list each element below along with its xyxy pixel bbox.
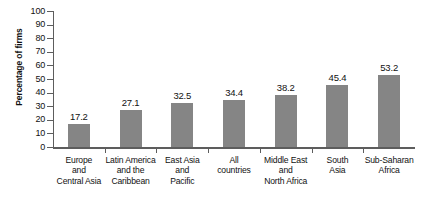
bar: 38.2 bbox=[275, 11, 297, 147]
bar: 53.2 bbox=[378, 11, 400, 147]
bar-fill bbox=[171, 103, 193, 147]
x-axis-category-label: Sub-SaharanAfrica bbox=[359, 155, 419, 176]
x-axis-category-line: Sub-Saharan bbox=[359, 155, 419, 165]
bar-fill bbox=[275, 95, 297, 147]
x-axis-category-line: North Africa bbox=[256, 176, 316, 186]
bar-fill bbox=[223, 100, 245, 147]
x-axis-tick bbox=[260, 148, 261, 153]
bars-layer: 17.227.132.534.438.245.453.2 bbox=[0, 11, 432, 147]
bar-value-label: 45.4 bbox=[308, 73, 366, 83]
bar-value-label: 17.2 bbox=[50, 112, 108, 122]
bar-value-label: 32.5 bbox=[153, 91, 211, 101]
bar-fill bbox=[68, 124, 90, 147]
bar-fill bbox=[326, 85, 348, 147]
x-axis-tick bbox=[105, 148, 106, 153]
bar-value-label: 53.2 bbox=[360, 63, 418, 73]
x-axis-category-line: Africa bbox=[359, 165, 419, 175]
x-axis-tick bbox=[156, 148, 157, 153]
cut-off-title-sliver bbox=[110, 0, 360, 2]
bar-value-label: 38.2 bbox=[257, 83, 315, 93]
bar-fill bbox=[378, 75, 400, 147]
x-axis-tick bbox=[312, 148, 313, 153]
x-axis-line bbox=[53, 147, 415, 149]
bar-value-label: 27.1 bbox=[102, 98, 160, 108]
bar: 32.5 bbox=[171, 11, 193, 147]
bar: 17.2 bbox=[68, 11, 90, 147]
bar-fill bbox=[120, 110, 142, 147]
bar-chart: Percentage of firms 01020304050607080901… bbox=[0, 0, 432, 201]
bar: 27.1 bbox=[120, 11, 142, 147]
x-axis-category-line: Pacific bbox=[152, 176, 212, 186]
bar-value-label: 34.4 bbox=[205, 88, 263, 98]
y-axis-tick bbox=[47, 147, 53, 148]
bar: 45.4 bbox=[326, 11, 348, 147]
x-axis-tick bbox=[208, 148, 209, 153]
x-axis-tick bbox=[363, 148, 364, 153]
bar: 34.4 bbox=[223, 11, 245, 147]
